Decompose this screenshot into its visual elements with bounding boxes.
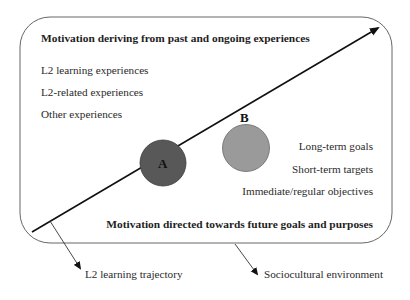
future-goal-item: Long-term goals	[299, 141, 373, 152]
trajectory-callout-arrow	[50, 221, 80, 268]
past-motivation-heading: Motivation deriving from past and ongoin…	[41, 33, 310, 44]
node-a-label: A	[158, 157, 167, 170]
future-motivation-heading: Motivation directed towards future goals…	[106, 219, 373, 230]
future-goal-item: Short-term targets	[292, 164, 373, 175]
node-b-label: B	[240, 111, 249, 124]
environment-callout-label: Sociocultural environment	[264, 269, 383, 280]
future-goal-item: Immediate/regular objectives	[242, 186, 373, 197]
node-b-circle	[223, 125, 270, 172]
trajectory-arrow	[32, 28, 378, 232]
environment-callout-arrow	[235, 244, 257, 274]
past-experience-item: Other experiences	[41, 109, 122, 120]
past-experience-item: L2 learning experiences	[41, 65, 148, 76]
trajectory-callout-label: L2 learning trajectory	[85, 269, 183, 280]
past-experience-item: L2-related experiences	[41, 87, 143, 98]
